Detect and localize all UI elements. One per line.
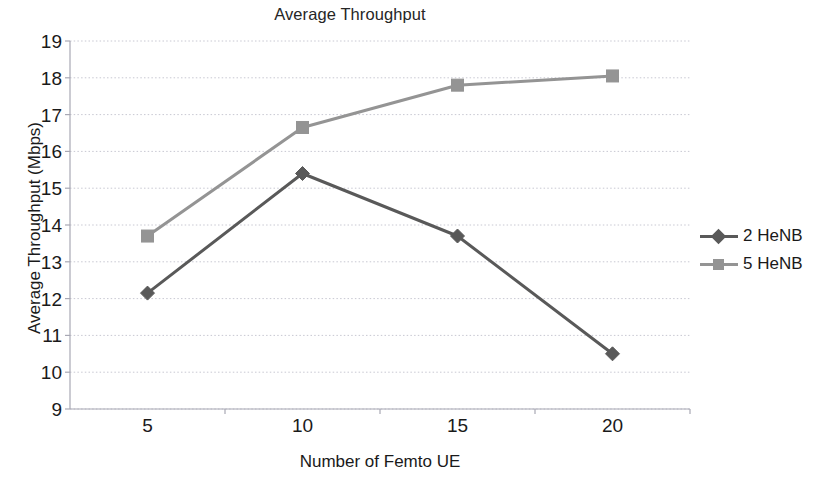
x-tick-label: 5 — [118, 415, 178, 437]
x-tick-label: 15 — [428, 415, 488, 437]
series-line-5-henb — [148, 76, 613, 236]
legend-label: 5 HeNB — [738, 254, 803, 274]
y-tick-label: 19 — [16, 32, 62, 51]
data-point-5-henb-15[interactable] — [452, 79, 464, 91]
legend-item-5-henb[interactable]: 5 HeNB — [700, 250, 815, 278]
x-tick-label: 20 — [583, 415, 643, 437]
y-tick-label: 14 — [16, 216, 62, 235]
y-tick-label: 9 — [16, 400, 62, 419]
legend-item-2-henb[interactable]: 2 HeNB — [700, 222, 815, 250]
y-tick-label: 17 — [16, 105, 62, 124]
plot-svg — [70, 41, 690, 409]
data-point-5-henb-10[interactable] — [297, 121, 309, 133]
y-tick-label: 10 — [16, 363, 62, 382]
y-axis-tick-labels: 191817161514131211109 — [12, 41, 62, 409]
x-tick-label: 10 — [273, 415, 333, 437]
legend-marker-square-icon — [713, 259, 724, 270]
chart-title: Average Throughput — [0, 5, 700, 24]
y-tick-label: 18 — [16, 68, 62, 87]
chart-legend: 2 HeNB5 HeNB — [700, 222, 815, 278]
data-point-5-henb-20[interactable] — [607, 70, 619, 82]
y-tick-label: 11 — [16, 326, 62, 345]
x-axis-title: Number of Femto UE — [70, 452, 690, 472]
plot-area — [70, 41, 690, 409]
y-tick-label: 12 — [16, 289, 62, 308]
chart-figure: Average Throughput Average Throughput (M… — [0, 0, 819, 491]
y-tick-label: 15 — [16, 179, 62, 198]
series-line-2-henb — [148, 174, 613, 354]
legend-swatch — [700, 255, 738, 273]
y-tick-label: 16 — [16, 142, 62, 161]
legend-marker-diamond-icon — [711, 229, 727, 245]
data-point-5-henb-5[interactable] — [142, 230, 154, 242]
legend-swatch — [700, 227, 738, 245]
legend-label: 2 HeNB — [738, 226, 803, 246]
y-tick-label: 13 — [16, 252, 62, 271]
